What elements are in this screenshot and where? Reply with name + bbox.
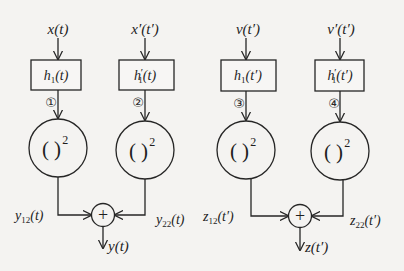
branch-3: v(t′) h1(t′) ③ ( )2 z12(t′)	[202, 21, 288, 226]
y12-path	[58, 177, 91, 215]
plus-icon: +	[98, 205, 108, 225]
block-diagram: x(t) h1(t) ① ( )2 y12(t) x′(t′) h′1(t) ②…	[0, 0, 404, 271]
output-y-t: y(t)	[106, 238, 129, 255]
filter-label-h1-tprime: h1(t′)	[234, 68, 262, 85]
adder-1: + y(t)	[92, 204, 129, 256]
path-marker-2: ②	[132, 95, 144, 110]
branch-1: x(t) h1(t) ① ( )2 y12(t)	[13, 21, 91, 225]
z12-path	[251, 179, 288, 216]
filter-label-h1prime-tprime: h′1(t′)	[327, 66, 353, 85]
squarer-label: ( )2	[129, 135, 155, 163]
input-x-t: x(t)	[47, 21, 69, 38]
y22-label: y22(t)	[154, 212, 185, 229]
filter-label-h1: h1(t)	[44, 68, 69, 85]
output-z-tprime: z(t′)	[304, 239, 328, 256]
input-xprime-tprime: x′(t′)	[130, 21, 158, 38]
path-marker-3: ③	[233, 96, 245, 111]
input-v-tprime: v(t′)	[236, 21, 260, 38]
path-marker-4: ④	[328, 96, 340, 111]
z12-label: z12(t′)	[202, 209, 234, 226]
z22-label: z22(t′)	[349, 213, 381, 230]
squarer-label: ( )2	[42, 133, 68, 161]
y12-label: y12(t)	[13, 208, 44, 225]
filter-label-h1prime: h′1(t)	[134, 66, 156, 85]
adder-2: + z(t′)	[289, 205, 329, 257]
plus-icon: +	[295, 206, 305, 226]
input-vprime-tprime: v′(t′)	[327, 21, 354, 38]
branch-4: v′(t′) h′1(t′) ④ ( )2 z22(t′)	[311, 21, 381, 230]
squarer-label: ( )2	[324, 136, 350, 164]
branch-2: x′(t′) h′1(t) ② ( )2 y22(t)	[115, 21, 185, 229]
path-marker-1: ①	[45, 95, 57, 110]
z22-path	[312, 180, 343, 216]
squarer-label: ( )2	[230, 135, 256, 163]
y22-path	[115, 179, 145, 215]
